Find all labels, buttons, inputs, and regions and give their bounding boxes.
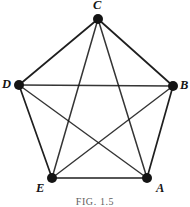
graph-edge-da	[19, 85, 147, 178]
graph-edge-cb	[98, 19, 173, 86]
graph-vertex-d	[14, 80, 24, 90]
vertex-label-e: E	[36, 182, 44, 195]
figure-container: C B A E D FIG. 1.5	[0, 0, 190, 207]
vertex-label-a: A	[156, 182, 164, 195]
graph-edge-ed	[19, 85, 52, 178]
graph-edge-dc	[19, 19, 98, 85]
graph-vertex-b	[168, 81, 178, 91]
graph-edge-ba	[147, 86, 173, 178]
graph-drawing	[0, 0, 190, 207]
graph-edge-db	[19, 85, 173, 86]
vertex-label-b: B	[180, 79, 188, 92]
graph-edge-eb	[52, 86, 173, 178]
graph-edge-ce	[52, 19, 98, 178]
graph-vertex-e	[47, 173, 57, 183]
vertex-label-d: D	[2, 78, 11, 91]
edge-layer	[19, 19, 173, 178]
figure-caption: FIG. 1.5	[0, 196, 190, 207]
vertex-label-c: C	[93, 0, 101, 12]
graph-vertex-a	[142, 173, 152, 183]
graph-edge-ca	[98, 19, 147, 178]
graph-vertex-c	[93, 14, 103, 24]
